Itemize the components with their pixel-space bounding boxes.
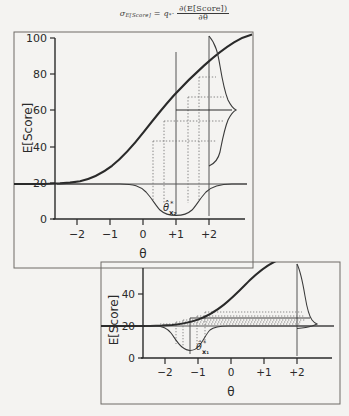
top-panel-frame	[14, 32, 253, 268]
bottom-x-ticks	[165, 358, 297, 364]
formula-fraction: ∂(E[Score]) ∂θ	[177, 5, 229, 23]
sigma-formula: σE[Score] = q*· ∂(E[Score]) ∂θ	[0, 5, 349, 23]
top-score-density	[209, 36, 236, 166]
bottom-xtick-neg1: −1	[190, 366, 205, 378]
formula-sigma-subscript: E[Score]	[125, 12, 151, 18]
top-y-ticks	[50, 38, 55, 219]
figure-canvas: 100 80 60 40 20 0 −2 −1 0 +1 +2	[0, 0, 349, 416]
formula-dot: ·	[172, 9, 175, 18]
bottom-yaxis-title: E[Score]	[107, 295, 121, 346]
top-xtick-neg2: −2	[69, 228, 85, 241]
top-ytick-40: 40	[33, 141, 47, 154]
top-xtick-0: 0	[140, 228, 147, 241]
bottom-xtick-neg2: −2	[157, 366, 172, 378]
bottom-xtick-pos2: +2	[289, 366, 304, 378]
top-panel: 100 80 60 40 20 0 −2 −1 0 +1 +2	[14, 32, 253, 268]
bottom-xtick-0: 0	[228, 366, 235, 378]
formula-denominator: ∂θ	[177, 14, 229, 22]
top-expected-score-curve	[14, 35, 252, 184]
top-ytick-80: 80	[33, 68, 47, 81]
top-x-ticklabels: −2 −1 0 +1 +2	[69, 228, 217, 241]
top-x-ticks	[77, 219, 209, 225]
bottom-score-density	[297, 264, 317, 328]
bottom-theta-density	[145, 326, 334, 350]
bottom-ytick-0: 0	[128, 352, 135, 364]
top-theta-hat-star: *	[170, 200, 174, 208]
bottom-theta-hat-subscript: x₁	[202, 348, 209, 356]
top-xtick-neg1: −1	[102, 228, 118, 241]
top-yaxis-title: E[Score]	[21, 103, 35, 154]
top-xtick-pos1: +1	[168, 228, 184, 241]
top-theta-hat-annotation: θ̂ * x₂	[163, 200, 177, 217]
top-theta-density	[57, 184, 247, 215]
top-ytick-0: 0	[40, 213, 47, 226]
bottom-theta-hat-annotation: θ̂ * x₁	[196, 339, 209, 356]
bottom-panel: 40 20 0 −2 −1 0 +1 +2 θ E[Score]	[101, 259, 340, 404]
top-ytick-100: 100	[26, 32, 47, 45]
bottom-theta-hat-star: *	[203, 339, 207, 347]
top-theta-hat-subscript: x₂	[169, 209, 177, 217]
top-xaxis-title: θ	[139, 247, 146, 261]
top-xtick-pos2: +2	[201, 228, 217, 241]
bottom-xtick-pos1: +1	[256, 366, 271, 378]
figure-root: σE[Score] = q*· ∂(E[Score]) ∂θ	[0, 0, 349, 416]
bottom-xaxis-title: θ	[227, 385, 234, 399]
formula-q-star: q*	[164, 9, 172, 18]
bottom-ytick-40: 40	[122, 288, 135, 300]
top-ytick-60: 60	[33, 104, 47, 117]
bottom-panel-frame	[101, 262, 340, 404]
bottom-x-ticklabels: −2 −1 0 +1 +2	[157, 366, 304, 378]
formula-equals: =	[154, 9, 161, 18]
formula-sigma: σE[Score]	[120, 9, 151, 18]
